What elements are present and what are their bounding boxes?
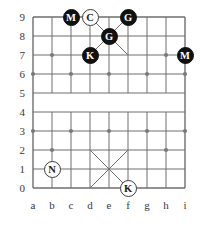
file-label-d: d [83, 199, 97, 211]
file-label-f: f [121, 199, 135, 211]
position-marker [183, 129, 187, 133]
position-marker [107, 72, 111, 76]
rank-label-7: 7 [13, 49, 25, 61]
piece-m-c9[interactable]: M [63, 9, 80, 26]
position-marker [69, 72, 73, 76]
position-marker [69, 129, 73, 133]
position-marker [145, 72, 149, 76]
position-marker [164, 148, 168, 152]
janggi-board-figure: 9876543210 abcdefghi MCGGKMNK [0, 0, 202, 231]
piece-g-e8[interactable]: G [101, 28, 118, 45]
position-marker [31, 72, 35, 76]
position-marker [50, 53, 54, 57]
rank-label-3: 3 [13, 125, 25, 137]
rank-label-0: 0 [13, 182, 25, 194]
file-label-e: e [102, 199, 116, 211]
rank-label-6: 6 [13, 68, 25, 80]
position-marker [31, 129, 35, 133]
piece-m-i7[interactable]: M [177, 47, 194, 64]
file-label-h: h [159, 199, 173, 211]
piece-k-d7[interactable]: K [82, 47, 99, 64]
file-label-g: g [140, 199, 154, 211]
rank-label-1: 1 [13, 163, 25, 175]
file-label-b: b [45, 199, 59, 211]
rank-label-4: 4 [13, 106, 25, 118]
file-label-c: c [64, 199, 78, 211]
file-label-a: a [26, 199, 40, 211]
piece-c-d9[interactable]: C [82, 9, 99, 26]
position-marker [145, 129, 149, 133]
rank-label-5: 5 [13, 87, 25, 99]
rank-label-8: 8 [13, 30, 25, 42]
piece-k-f0[interactable]: K [120, 180, 137, 197]
piece-n-b1[interactable]: N [44, 161, 61, 178]
file-label-i: i [178, 199, 192, 211]
position-marker [183, 72, 187, 76]
piece-g-f9[interactable]: G [120, 9, 137, 26]
position-marker [164, 53, 168, 57]
rank-label-2: 2 [13, 144, 25, 156]
rank-label-9: 9 [13, 11, 25, 23]
position-marker [107, 129, 111, 133]
position-marker [50, 148, 54, 152]
